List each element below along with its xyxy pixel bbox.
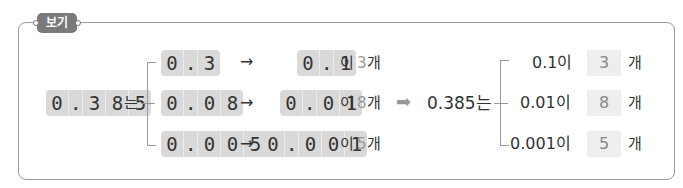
count-row2: 8: [357, 90, 367, 116]
digit-cell: 0: [297, 50, 320, 76]
right-number-label: 0.385는: [427, 90, 492, 116]
josa-row1: 이: [340, 50, 354, 76]
decimal-point-cell: .: [184, 50, 198, 76]
right-unit-suffix-row3: 개: [628, 131, 642, 157]
decimal-point-cell: .: [184, 131, 198, 157]
left-bracket-stub: [141, 103, 155, 104]
right-unit-row2: 0.01이: [520, 90, 571, 116]
digit-cell: 0: [198, 90, 221, 116]
count-row1: 3: [357, 50, 367, 76]
thick-right-arrow-icon: ➡: [396, 89, 411, 115]
count-row3: 5: [357, 131, 367, 157]
left-bracket: [147, 62, 156, 146]
right-unit-suffix-row1: 개: [628, 50, 642, 76]
answer-box-row2: 8: [587, 90, 621, 116]
digit-cell: 0: [161, 50, 184, 76]
example-tag: 보기: [37, 13, 77, 33]
decimal-point-cell: .: [69, 90, 83, 116]
answer-box-row3: 5: [587, 131, 621, 157]
digit-cell: 0: [280, 90, 303, 116]
digit-cell: 0: [198, 131, 221, 157]
digit-cell: 0: [161, 131, 184, 157]
decimal-point-cell: .: [303, 90, 317, 116]
josa-row2: 이: [340, 90, 354, 116]
part-cells-row2: 0 . 0 8: [161, 90, 243, 116]
right-arrow-icon: →: [240, 49, 253, 75]
digit-cell: 0: [161, 90, 184, 116]
right-arrow-icon: →: [240, 90, 253, 116]
unit-row1: 개: [367, 50, 381, 76]
suffix-neun: 는: [124, 90, 138, 116]
josa-row3: 이: [340, 131, 354, 157]
decimal-point-cell: .: [285, 131, 299, 157]
part-cells-row1: 0 . 3: [161, 50, 220, 76]
right-arrow-icon: →: [240, 131, 253, 157]
right-unit-row1: 0.1이: [532, 50, 572, 76]
digit-cell: 0: [46, 90, 69, 116]
digit-cell: 3: [198, 50, 220, 76]
unit-row2: 개: [367, 90, 381, 116]
decimal-point-cell: .: [320, 50, 334, 76]
answer-box-row1: 3: [587, 50, 621, 76]
right-bracket-stub: [494, 103, 508, 104]
digit-cell: 3: [83, 90, 106, 116]
digit-cell: 0: [262, 131, 285, 157]
right-unit-suffix-row2: 개: [628, 90, 642, 116]
unit-row3: 개: [367, 131, 381, 157]
decimal-point-cell: .: [184, 90, 198, 116]
digit-cell: 0: [317, 90, 340, 116]
digit-cell: 0: [299, 131, 322, 157]
right-unit-row3: 0.001이: [510, 131, 571, 157]
